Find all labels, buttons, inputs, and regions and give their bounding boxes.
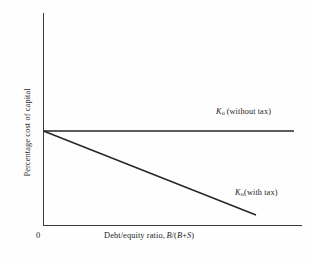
cost-of-capital-figure: Percentage cost of capital Debt/equity r… [0, 0, 312, 262]
x-axis-title-close-paren: ) [191, 231, 194, 240]
x-axis-title: Debt/equity ratio,B/(B+S) [104, 232, 194, 241]
series-label-with-tax: Ko(with tax) [235, 189, 278, 198]
x-axis-title-b-numerator: B [165, 231, 172, 240]
chart-plot-area [0, 0, 312, 262]
k-symbol-without-tax: K [216, 107, 222, 116]
series-label-without-tax-text: (without tax) [225, 107, 271, 116]
x-axis-title-prefix: Debt/equity ratio, [104, 231, 165, 240]
k-symbol-with-tax: K [235, 188, 241, 197]
series-label-with-tax-text: (with tax) [244, 188, 278, 197]
origin-label: 0 [36, 232, 40, 241]
y-axis-title: Percentage cost of capital [24, 56, 33, 208]
series-label-without-tax: Ko(without tax) [216, 108, 271, 117]
